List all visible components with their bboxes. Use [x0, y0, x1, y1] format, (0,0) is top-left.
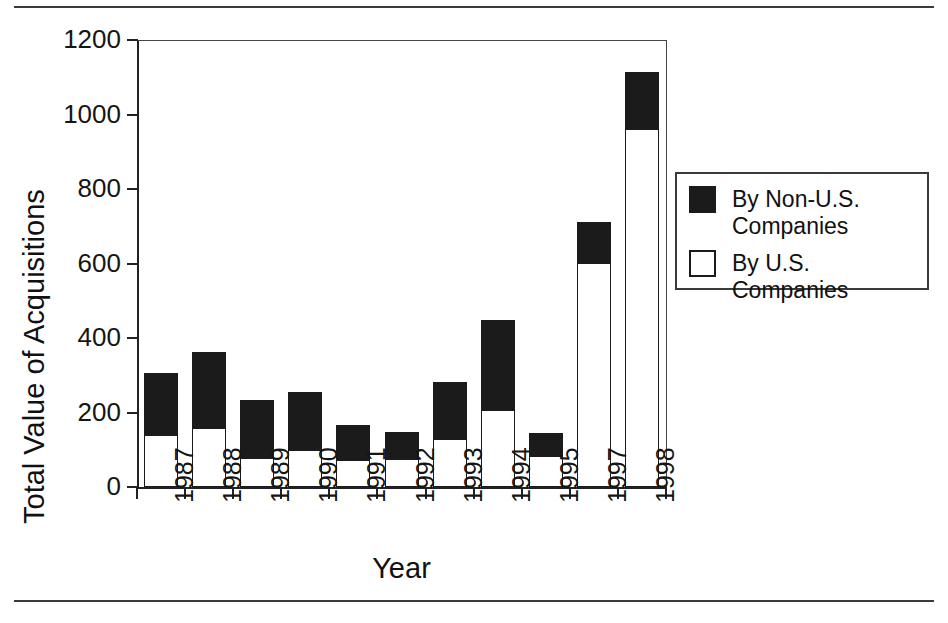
bar-segment-non-us-1990	[288, 392, 322, 450]
bar-segment-non-us-1987	[144, 373, 178, 435]
y-tick-label: 200	[78, 398, 121, 426]
y-tick-label: 1000	[63, 100, 121, 128]
y-tick-mark	[127, 412, 138, 414]
x-tick-label-1993: 1993	[460, 447, 486, 503]
x-tick-label-1992: 1992	[412, 447, 438, 503]
legend-label-non-us-line2: Companies	[732, 213, 848, 239]
y-tick-label: 400	[78, 323, 121, 351]
bar-segment-non-us-1988	[192, 352, 226, 428]
x-tick-mark	[136, 487, 138, 499]
bar-segment-non-us-1993	[433, 382, 467, 439]
top-divider-rule	[14, 6, 934, 8]
legend-entry-us: By U.S. Companies	[689, 250, 927, 304]
x-tick-label-1989: 1989	[267, 447, 293, 503]
x-tick-label-1991: 1991	[363, 447, 389, 503]
x-tick-label-1990: 1990	[315, 447, 341, 503]
y-axis-label: Total Value of Acquisitions	[18, 84, 50, 524]
y-tick-mark	[127, 114, 138, 116]
x-tick-label-1988: 1988	[219, 447, 245, 503]
plot-frame-top	[137, 40, 666, 41]
bar-segment-non-us-1997	[577, 222, 611, 263]
bar-segment-non-us-1994	[481, 320, 515, 410]
y-axis-label-container: Total Value of Acquisitions	[10, 40, 50, 487]
x-axis-label: Year	[137, 552, 666, 585]
y-tick-mark	[127, 188, 138, 190]
legend-entry-non-us: By Non-U.S. Companies	[689, 186, 860, 240]
x-tick-label-1998: 1998	[652, 447, 678, 503]
legend-label-us: By U.S. Companies	[732, 250, 927, 304]
y-tick-mark	[127, 39, 138, 41]
plot-frame-right	[666, 40, 667, 487]
x-tick-label-1987: 1987	[171, 447, 197, 503]
legend: By Non-U.S. Companies By U.S. Companies	[675, 172, 929, 290]
x-tick-label-1997: 1997	[604, 447, 630, 503]
y-tick-mark	[127, 337, 138, 339]
y-tick-label: 0	[107, 472, 121, 500]
x-tick-label-1994: 1994	[508, 447, 534, 503]
bar-segment-non-us-1998	[625, 72, 659, 129]
legend-label-non-us-line1: By Non-U.S.	[732, 186, 860, 212]
bar-1998	[625, 72, 659, 487]
legend-label-non-us: By Non-U.S. Companies	[732, 186, 860, 240]
y-tick-label: 800	[78, 174, 121, 202]
plot-area: 020040060080010001200 198719881989199019…	[137, 40, 666, 487]
bottom-divider-rule	[14, 600, 934, 602]
legend-swatch-filled-square-icon	[689, 186, 716, 213]
x-tick-label-1995: 1995	[556, 447, 582, 503]
legend-swatch-empty-square-icon	[689, 250, 716, 277]
y-tick-mark	[127, 263, 138, 265]
y-tick-label: 1200	[63, 25, 121, 53]
figure: Total Value of Acquisitions 020040060080…	[0, 0, 948, 623]
x-axis-line	[137, 487, 666, 489]
y-tick-label: 600	[78, 249, 121, 277]
bar-segment-us-1998	[625, 129, 659, 487]
